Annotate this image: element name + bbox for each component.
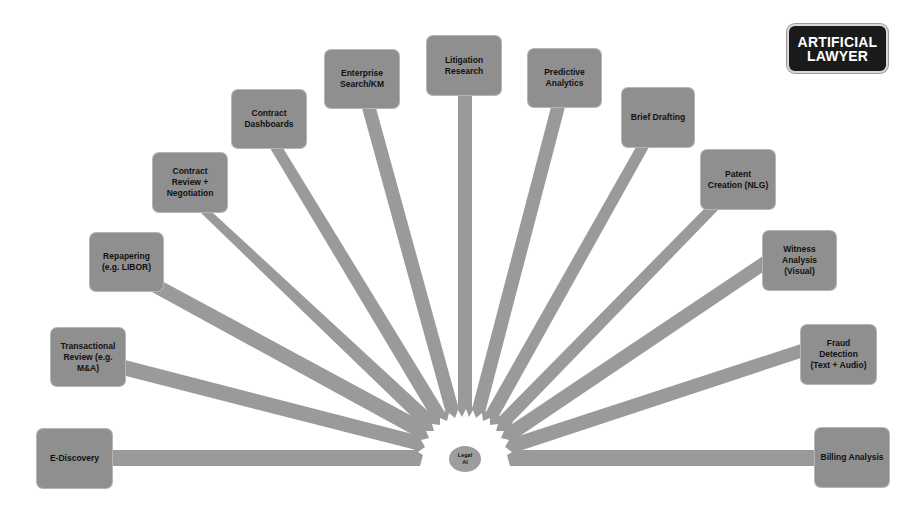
spoke-fraud-detection	[500, 344, 801, 456]
artificial-lawyer-logo: ARTIFICIAL LAWYER	[789, 26, 886, 71]
node-billing-analysis: Billing Analysis	[815, 428, 889, 487]
node-e-discovery: E-Discovery	[37, 429, 112, 488]
node-contract-dashboards: Contract Dashboards	[232, 90, 306, 148]
spoke-litigation-research	[458, 95, 472, 424]
node-repapering: Repapering (e.g. LIBOR)	[90, 233, 163, 291]
node-brief-drafting: Brief Drafting	[622, 88, 694, 147]
legal-ai-hub: Legal AI	[449, 446, 481, 472]
legal-ai-diagram: Legal AI E-Discovery Transactional Revie…	[0, 0, 924, 521]
node-patent-creation: Patent Creation (NLG)	[701, 150, 775, 209]
node-litigation-research: Litigation Research	[427, 36, 501, 95]
spoke-e-discovery	[112, 450, 420, 466]
node-fraud-detection: Fraud Detection (Text + Audio)	[801, 325, 876, 384]
node-predictive-analytics: Predictive Analytics	[528, 49, 601, 107]
node-enterprise-search: Enterprise Search/KM	[325, 50, 399, 108]
logo-line-2: LAWYER	[807, 49, 868, 63]
spoke-billing-analysis	[510, 450, 815, 466]
node-transactional-review: Transactional Review (e.g. M&A)	[51, 328, 125, 386]
logo-line-1: ARTIFICIAL	[798, 35, 878, 49]
node-contract-review: Contract Review + Negotiation	[153, 153, 227, 212]
node-witness-analysis: Witness Analysis (Visual)	[763, 231, 836, 290]
